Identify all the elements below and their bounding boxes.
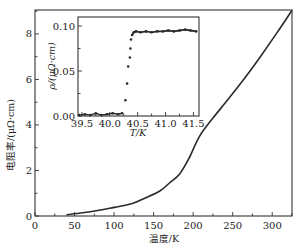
x-tick-label: 50	[68, 220, 81, 231]
inset-data-point	[129, 56, 132, 59]
y-tick-label: 2	[26, 165, 32, 176]
y-tick-label: 0.00	[53, 111, 75, 122]
y-tick-label: 0	[26, 211, 32, 222]
inset-data-point	[126, 82, 129, 85]
inset-data-point	[130, 38, 133, 41]
inset-plot: 39.540.040.541.041.50.000.050.10	[53, 17, 205, 129]
x-tick-label: 250	[223, 220, 242, 231]
y-tick-label: 4	[26, 119, 32, 130]
x-tick-label: 300	[263, 220, 282, 231]
x-tick-label: 41.0	[154, 118, 176, 129]
y-tick-label: 0.10	[53, 21, 75, 32]
y-tick-label: 6	[26, 74, 32, 85]
x-tick-label: 100	[105, 220, 124, 231]
inset-x-axis-label: T/K	[130, 127, 148, 138]
x-tick-label: 200	[184, 220, 203, 231]
inset-data-point	[127, 65, 130, 68]
resistivity-chart: 05010015020025030002468 39.540.040.541.0…	[0, 0, 297, 252]
inset-y-axis-label: ρ/(μΩ·cm)	[46, 42, 57, 91]
y-tick-label: 8	[26, 28, 32, 39]
main-y-axis-label: 电阻率/(μΩ·cm)	[5, 99, 16, 171]
inset-data-point	[124, 99, 127, 102]
x-tick-label: 0	[32, 220, 38, 231]
x-tick-label: 150	[144, 220, 163, 231]
x-tick-label: 41.5	[182, 118, 204, 129]
inset-data-point	[129, 47, 132, 50]
main-x-axis-label: 温度/K	[149, 233, 180, 244]
x-tick-label: 40.0	[99, 118, 121, 129]
